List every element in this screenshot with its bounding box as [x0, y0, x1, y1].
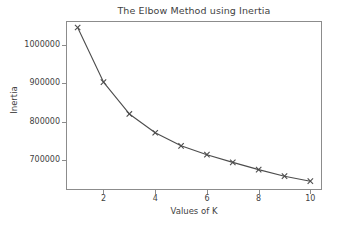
- y-tick-mark: [62, 160, 66, 161]
- chart-title: The Elbow Method using Inertia: [66, 5, 322, 16]
- x-tick-mark: [207, 190, 208, 194]
- x-tick-label: 6: [195, 194, 219, 203]
- inertia-markers: [75, 25, 313, 184]
- y-tick-mark: [62, 83, 66, 84]
- y-tick-label: 700000: [8, 155, 60, 164]
- plot-canvas: [66, 21, 322, 190]
- x-tick-mark: [103, 190, 104, 194]
- x-tick-mark: [310, 190, 311, 194]
- x-tick-mark: [155, 190, 156, 194]
- y-tick-label: 1000000: [8, 40, 60, 49]
- y-tick-mark: [62, 45, 66, 46]
- x-tick-label: 4: [143, 194, 167, 203]
- x-tick-label: 10: [298, 194, 322, 203]
- y-tick-mark: [62, 122, 66, 123]
- y-axis-label: Inertia: [9, 70, 19, 130]
- x-tick-mark: [259, 190, 260, 194]
- x-axis-label: Values of K: [66, 206, 322, 216]
- inertia-line: [78, 28, 311, 182]
- x-tick-label: 8: [247, 194, 271, 203]
- chart-figure: The Elbow Method using Inertia 700000800…: [0, 0, 340, 229]
- x-tick-label: 2: [91, 194, 115, 203]
